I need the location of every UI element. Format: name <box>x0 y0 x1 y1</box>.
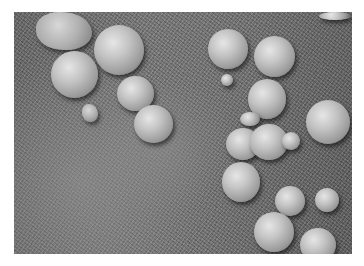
spherule <box>51 51 98 98</box>
spherule <box>300 228 336 254</box>
spherule <box>94 25 144 75</box>
spherule <box>319 12 351 20</box>
spherule <box>222 162 260 202</box>
spherule <box>240 112 260 126</box>
spherule <box>254 212 294 252</box>
spherules-photograph <box>14 12 352 254</box>
spherule <box>275 186 305 216</box>
spherule <box>221 74 233 86</box>
spherule <box>134 105 173 143</box>
spherule <box>315 188 339 212</box>
spherule <box>282 132 300 150</box>
pebble <box>36 12 92 50</box>
spherule <box>208 29 248 69</box>
spherule <box>306 100 350 144</box>
pebble <box>82 104 98 122</box>
spherule <box>254 36 295 77</box>
